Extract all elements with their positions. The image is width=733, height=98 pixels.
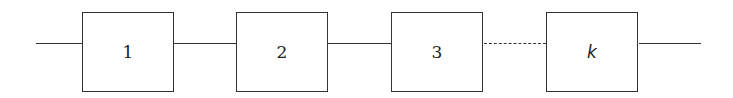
block-1: 1 xyxy=(82,12,174,92)
block-k: k xyxy=(546,12,638,92)
connector-3-k-dashed xyxy=(484,43,546,44)
connector-1-2 xyxy=(174,43,236,44)
block-3: 3 xyxy=(391,12,483,92)
block-2: 2 xyxy=(236,12,328,92)
block-label: 2 xyxy=(277,42,288,62)
output-line xyxy=(639,43,701,44)
input-line xyxy=(36,43,82,44)
block-label: 3 xyxy=(432,42,443,62)
block-label: 1 xyxy=(123,42,134,62)
block-label: k xyxy=(587,42,597,62)
connector-2-3 xyxy=(328,43,391,44)
